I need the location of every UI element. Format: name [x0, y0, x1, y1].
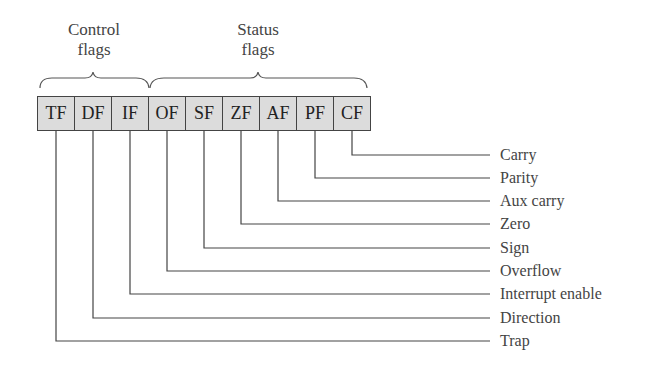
flag-cell-af: AF	[259, 96, 297, 131]
flag-cell-df: DF	[74, 96, 112, 131]
flag-cell-tf: TF	[37, 96, 75, 131]
flag-cell-if: IF	[111, 96, 149, 131]
flag-desc-interrupt-enable: Interrupt enable	[500, 285, 602, 303]
flag-desc-zero: Zero	[500, 215, 530, 233]
leader-sign	[204, 131, 490, 248]
flag-cell-zf: ZF	[222, 96, 260, 131]
flag-desc-carry: Carry	[500, 146, 536, 164]
flag-desc-parity: Parity	[500, 169, 538, 187]
flag-cell-pf: PF	[296, 96, 334, 131]
flag-desc-sign: Sign	[500, 239, 529, 257]
flag-desc-overflow: Overflow	[500, 262, 561, 280]
flag-desc-trap: Trap	[500, 332, 530, 350]
flag-cell-cf: CF	[333, 96, 371, 131]
flag-desc-direction: Direction	[500, 309, 560, 327]
flag-cell-of: OF	[148, 96, 186, 131]
flag-desc-aux-carry: Aux carry	[500, 192, 564, 210]
connector-lines	[0, 0, 669, 376]
leader-aux-carry	[278, 131, 490, 201]
control-flags-brace	[40, 72, 149, 88]
flags-register: TF DF IF OF SF ZF AF PF CF	[37, 96, 371, 131]
status-flags-brace	[150, 72, 367, 88]
flags-register-diagram: Control flags Status flags TF DF IF OF S…	[0, 0, 669, 376]
leader-trap	[56, 131, 490, 341]
flag-cell-sf: SF	[185, 96, 223, 131]
leader-carry	[352, 131, 490, 155]
